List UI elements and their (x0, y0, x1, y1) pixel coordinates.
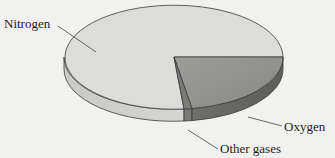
pie-graphic (0, 0, 335, 158)
oxygen-slice (174, 57, 283, 109)
other-gases-rim (184, 109, 192, 121)
oxygen-leader-line (248, 117, 282, 126)
other-gases-leader-line (188, 130, 218, 149)
pie-chart: Nitrogen Oxygen Other gases (0, 0, 335, 158)
oxygen-label: Oxygen (284, 120, 325, 133)
other-gases-label: Other gases (220, 142, 281, 155)
nitrogen-label: Nitrogen (4, 17, 50, 30)
